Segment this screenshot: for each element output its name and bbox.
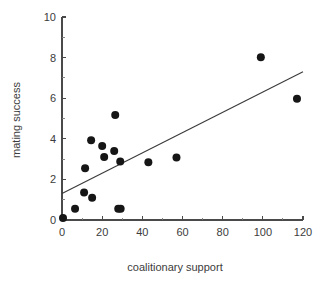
data-point [257,53,265,61]
data-point [116,158,124,166]
data-point [293,95,301,103]
x-axis-title: coalitionary support [127,261,222,273]
x-tick-label: 40 [136,226,148,238]
y-tick-label: 0 [50,214,56,226]
y-tick-label: 10 [44,11,56,23]
data-point [100,153,108,161]
y-axis-title: mating success [10,82,22,158]
x-tick-label: 100 [254,226,272,238]
x-tick-label: 60 [176,226,188,238]
y-tick-label: 4 [50,133,56,145]
x-tick-label: 120 [294,226,312,238]
y-tick-label: 8 [50,52,56,64]
data-point [172,153,180,161]
y-tick-label: 6 [50,92,56,104]
x-tick-label: 0 [59,226,65,238]
data-point [111,111,119,119]
data-point [71,205,79,213]
data-point [110,147,118,155]
scatter-plot-figure: 0246810 020406080100120 coalitionary sup… [0,0,328,286]
y-tick-label: 2 [50,173,56,185]
data-point [80,189,88,197]
data-point [98,142,106,150]
data-point [117,205,125,213]
data-point [87,136,95,144]
chart-canvas: 0246810 020406080100120 coalitionary sup… [0,0,328,286]
x-tick-label: 20 [96,226,108,238]
data-point [144,158,152,166]
data-point [88,194,96,202]
x-tick-label: 80 [217,226,229,238]
data-point [81,164,89,172]
data-point [59,214,67,222]
